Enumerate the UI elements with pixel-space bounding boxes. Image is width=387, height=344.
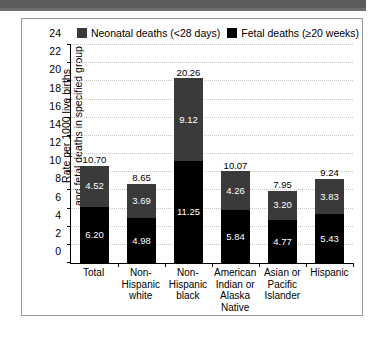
bar-segment-value-neonatal: 3.83: [320, 192, 339, 202]
bar-total-label: 20.26: [177, 67, 201, 77]
bar-slot: 3.694.988.65: [118, 45, 165, 263]
x-axis-label-4: Asian orPacificIslander: [259, 267, 306, 313]
bar-segment-value-fetal: 4.98: [132, 236, 151, 246]
stacked-bar[interactable]: 4.526.2010.70: [80, 166, 109, 263]
bar-segment-value-neonatal: 4.26: [226, 186, 245, 196]
y-tick-label: 0: [55, 245, 61, 257]
bar-segment-fetal[interactable]: 4.98: [127, 218, 156, 263]
bar-slot: 3.835.439.24: [306, 45, 353, 263]
x-tick-mark: [353, 263, 354, 267]
x-axis-label-line: Native: [212, 302, 259, 314]
stacked-bar[interactable]: 3.694.988.65: [127, 184, 156, 263]
bar-total-label: 9.24: [320, 168, 339, 178]
stacked-bar[interactable]: 9.1211.2520.26: [174, 79, 203, 263]
bar-segment-neonatal[interactable]: 3.69: [127, 184, 156, 218]
bar-segment-neonatal[interactable]: 4.52: [80, 166, 109, 207]
y-tick-label: 22: [49, 45, 61, 57]
plot-wrap: 024681012141618202224 4.526.2010.703.694…: [70, 45, 353, 264]
stacked-bar[interactable]: 4.265.8410.07: [221, 172, 250, 263]
bar-slot: 4.265.8410.07: [212, 45, 259, 263]
bar-slot: 4.526.2010.70: [71, 45, 118, 263]
x-axis-label-line: Islander: [259, 290, 306, 302]
chart-legend: Neonatal deaths (<28 days)Fetal deaths (…: [79, 26, 357, 40]
legend-entry-fetal: Fetal deaths (≥20 weeks): [227, 28, 359, 39]
x-axis-label-line: Alaska: [212, 290, 259, 302]
bar-segment-fetal[interactable]: 5.84: [221, 210, 250, 263]
legend-label-neonatal: Neonatal deaths (<28 days): [91, 28, 220, 39]
x-axis-label-line: Non-: [117, 267, 164, 279]
plot-area: 024681012141618202224 4.526.2010.703.694…: [70, 45, 353, 264]
bar-segment-fetal[interactable]: 5.43: [315, 214, 344, 263]
bar-segment-value-fetal: 5.84: [226, 232, 245, 242]
bar-segment-neonatal[interactable]: 3.20: [268, 191, 297, 220]
bar-slot: 9.1211.2520.26: [165, 45, 212, 263]
x-axis-labels: TotalNon-HispanicwhiteNon-HispanicblackA…: [70, 267, 353, 313]
bar-segment-value-neonatal: 3.20: [273, 200, 292, 210]
y-tick-label: 10: [49, 154, 61, 166]
bar-segment-value-neonatal: 9.12: [179, 115, 198, 125]
x-axis-label-line: Indian or: [212, 279, 259, 291]
legend-entry-neonatal: Neonatal deaths (<28 days): [77, 28, 220, 39]
x-axis-label-line: Asian or: [259, 267, 306, 279]
bar-segment-neonatal[interactable]: 3.83: [315, 179, 344, 214]
bar-group: 4.526.2010.703.694.988.659.1211.2520.264…: [71, 45, 353, 263]
bar-total-label: 8.65: [132, 173, 151, 183]
page-header-band-shade: [0, 8, 366, 11]
legend-label-fetal: Fetal deaths (≥20 weeks): [241, 28, 359, 39]
y-tick-label: 16: [49, 100, 61, 112]
bar-segment-value-fetal: 5.43: [320, 234, 339, 244]
bar-segment-value-fetal: 6.20: [85, 230, 104, 240]
bar-total-label: 10.70: [83, 154, 107, 164]
x-axis-label-line: Hispanic: [164, 279, 211, 291]
x-axis-label-3: AmericanIndian orAlaskaNative: [212, 267, 259, 313]
bar-total-label: 10.07: [224, 160, 248, 170]
x-axis-label-5: Hispanic: [306, 267, 353, 313]
x-axis-label-line: Hispanic: [306, 267, 353, 279]
bar-segment-fetal[interactable]: 6.20: [80, 207, 109, 263]
y-tick-label: 8: [55, 172, 61, 184]
x-axis-label-1: Non-Hispanicwhite: [117, 267, 164, 313]
page-header-band: [0, 0, 366, 11]
x-axis-label-line: Total: [70, 267, 117, 279]
bar-segment-value-neonatal: 3.69: [132, 196, 151, 206]
bar-segment-fetal[interactable]: 11.25: [174, 161, 203, 263]
bar-slot: 3.204.777.95: [259, 45, 306, 263]
y-tick-label: 24: [49, 27, 61, 39]
bar-segment-value-fetal: 11.25: [177, 207, 200, 217]
x-axis-label-line: American: [212, 267, 259, 279]
bar-segment-neonatal[interactable]: 9.12: [174, 78, 203, 161]
bar-segment-value-neonatal: 4.52: [85, 181, 104, 191]
x-axis-label-line: white: [117, 290, 164, 302]
y-tick-label: 20: [49, 63, 61, 75]
y-tick-label: 4: [55, 209, 61, 221]
y-tick-label: 18: [49, 82, 61, 94]
x-axis-label-0: Total: [70, 267, 117, 313]
legend-swatch-fetal-icon: [227, 28, 237, 38]
y-tick-label: 6: [55, 191, 61, 203]
x-axis-label-line: Hispanic: [117, 279, 164, 291]
bar-segment-fetal[interactable]: 4.77: [268, 220, 297, 263]
bar-segment-value-fetal: 4.77: [273, 237, 292, 247]
stacked-bar[interactable]: 3.835.439.24: [315, 179, 344, 263]
x-axis-label-2: Non-Hispanicblack: [164, 267, 211, 313]
x-axis-label-line: black: [164, 290, 211, 302]
y-tick-label: 2: [55, 227, 61, 239]
figure-frame: Neonatal deaths (<28 days)Fetal deaths (…: [21, 18, 363, 316]
y-tick-label: 12: [49, 136, 61, 148]
bar-segment-neonatal[interactable]: 4.26: [221, 171, 250, 210]
bar-total-label: 7.95: [273, 179, 292, 189]
y-tick-label: 14: [49, 118, 61, 130]
x-axis-label-line: Non-: [164, 267, 211, 279]
x-axis-label-line: Pacific: [259, 279, 306, 291]
stacked-bar[interactable]: 3.204.777.95: [268, 191, 297, 263]
